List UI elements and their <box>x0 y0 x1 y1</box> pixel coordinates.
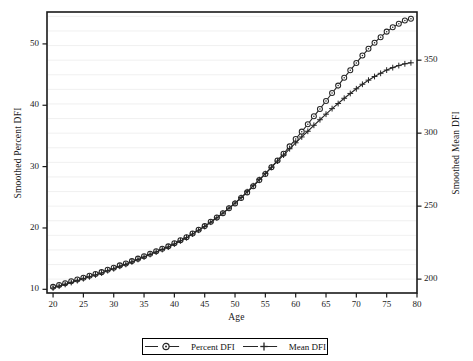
y-tick-label-right: 200 <box>424 273 454 283</box>
x-tick-label: 70 <box>341 299 371 309</box>
legend-item-percent-dfi: Percent DFI <box>144 341 235 352</box>
y-tick-label-left: 10 <box>13 283 39 293</box>
x-tick-label: 35 <box>129 299 159 309</box>
series-mean-dfi <box>50 60 414 291</box>
y-tick-label-right: 250 <box>424 200 454 210</box>
legend-label: Percent DFI <box>191 342 235 352</box>
y-tick-label-left: 50 <box>13 38 39 48</box>
x-tick-label: 45 <box>190 299 220 309</box>
legend-item-mean-dfi: Mean DFI <box>242 341 326 352</box>
chart-figure: Smoothed Percent DFI Smoothed Mean DFI A… <box>0 0 473 361</box>
y-tick-label-right: 300 <box>424 127 454 137</box>
x-tick-label: 60 <box>281 299 311 309</box>
legend-label: Mean DFI <box>289 342 326 352</box>
axis-ticks <box>43 44 422 298</box>
y-tick-label-right: 350 <box>424 54 454 64</box>
y-tick-label-left: 20 <box>13 222 39 232</box>
series-percent-dfi <box>51 16 414 289</box>
y-tick-label-left: 30 <box>13 161 39 171</box>
x-tick-label: 25 <box>68 299 98 309</box>
y-tick-label-left: 40 <box>13 99 39 109</box>
x-tick-label: 30 <box>99 299 129 309</box>
x-tick-label: 40 <box>159 299 189 309</box>
chart-legend: Percent DFI Mean DFI <box>142 338 328 355</box>
x-tick-label: 75 <box>372 299 402 309</box>
x-tick-label: 20 <box>38 299 68 309</box>
plus-marker <box>242 341 286 352</box>
x-tick-label: 55 <box>250 299 280 309</box>
x-tick-label: 80 <box>402 299 432 309</box>
x-tick-label: 50 <box>220 299 250 309</box>
x-tick-label: 65 <box>311 299 341 309</box>
circle-marker <box>144 341 188 352</box>
